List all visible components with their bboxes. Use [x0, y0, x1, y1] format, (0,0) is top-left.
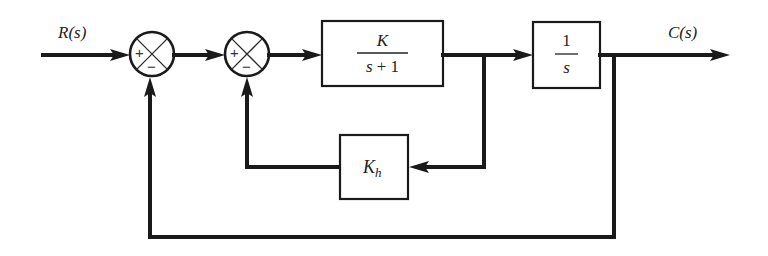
signal-sum1-to-sum2: [174, 49, 225, 61]
plant-numerator: K: [376, 31, 390, 50]
output-signal: C(s): [600, 23, 730, 61]
signal-sum2-to-plant: [269, 49, 322, 61]
summing-junction-1: + −: [130, 32, 174, 76]
minus-sign: −: [147, 58, 156, 75]
summing-junction-2: + −: [225, 32, 269, 76]
output-label: C(s): [668, 23, 698, 42]
plus-sign: +: [230, 44, 239, 61]
plant-block: K s + 1: [322, 21, 443, 86]
input-label: R(s): [57, 23, 87, 42]
integrator-numerator: 1: [562, 31, 571, 50]
input-signal: R(s): [43, 23, 130, 61]
plant-denominator: s + 1: [366, 57, 399, 76]
integrator-block: 1 s: [533, 22, 600, 88]
feedback-gain-block: Kh: [340, 135, 408, 199]
signal-plant-to-integrator: [443, 49, 533, 61]
minus-sign: −: [242, 58, 251, 75]
block-diagram: R(s) + − + − K s + 1: [0, 0, 768, 256]
integrator-denominator: s: [563, 58, 570, 77]
plus-sign: +: [135, 44, 144, 61]
